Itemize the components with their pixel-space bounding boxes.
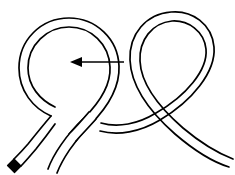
knot-diagram-figure bbox=[0, 0, 235, 175]
right-loop-fill bbox=[100, 12, 233, 167]
arrow-head-icon bbox=[70, 57, 82, 67]
centre-crossing-over-strand bbox=[69, 112, 96, 141]
centre-crossing-fill bbox=[69, 112, 96, 141]
lower-left-strand-fill bbox=[14, 116, 55, 166]
lower-left-strand bbox=[8, 116, 56, 173]
right-teardrop-loop bbox=[100, 12, 233, 167]
knot-diagram-canvas bbox=[0, 0, 235, 175]
